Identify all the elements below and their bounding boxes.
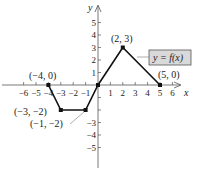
point-label-neg3-neg2: (−3, −2): [14, 106, 47, 118]
data-point: [121, 46, 125, 50]
data-point: [59, 108, 63, 112]
x-tick-label: 5: [158, 88, 163, 98]
y-tick-label: −5: [86, 143, 96, 153]
x-axis-label: x: [183, 87, 189, 98]
data-point: [96, 83, 100, 87]
x-tick-label: −6: [19, 88, 29, 98]
data-point: [84, 108, 88, 112]
x-tick-label: 1: [108, 88, 113, 98]
point-label-neg4-0: (−4, 0): [29, 70, 56, 82]
y-tick-label: 3: [92, 43, 97, 53]
x-tick-label: 6: [170, 88, 175, 98]
x-tick-label: −5: [31, 88, 41, 98]
x-tick-label: −2: [68, 88, 78, 98]
point-label-5-0: (5, 0): [158, 69, 180, 81]
y-tick-label: −3: [86, 118, 96, 128]
function-graph: −6−5−4−3−2−1123456−5−4−312345 y x (−4, 0…: [0, 0, 199, 171]
function-points: [46, 46, 162, 113]
y-tick-label: −4: [86, 130, 96, 140]
leader-line-neg1-neg2: [70, 112, 84, 124]
function-label: y = f(x): [152, 52, 184, 64]
y-tick-label: 2: [92, 55, 97, 65]
x-tick-label: −1: [81, 88, 91, 98]
x-tick-label: 2: [121, 88, 126, 98]
data-point: [46, 83, 50, 87]
x-tick-label: 3: [133, 88, 138, 98]
x-tick-label: −3: [56, 88, 66, 98]
y-tick-label: 4: [92, 30, 97, 40]
point-label-neg1-neg2: (−1, −2): [30, 118, 63, 130]
y-tick-label: 1: [92, 68, 97, 78]
x-tick-label: 4: [145, 88, 150, 98]
y-tick-label: 5: [92, 18, 97, 28]
y-axis-label: y: [87, 2, 93, 13]
point-label-2-3: (2, 3): [111, 33, 133, 45]
data-point: [158, 83, 162, 87]
